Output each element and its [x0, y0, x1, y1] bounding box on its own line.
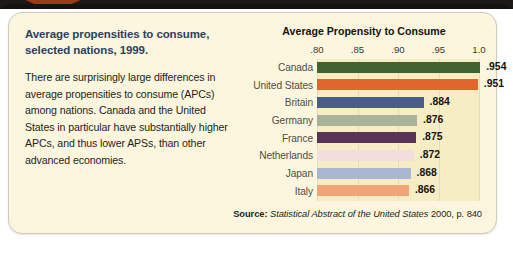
source-note: Source: Statistical Abstract of the Unit… — [25, 209, 482, 219]
bar-value-label: .872 — [420, 149, 440, 160]
x-tick-label-3: .95 — [432, 44, 445, 55]
figure-headline: Average propensities to consume, selecte… — [25, 27, 235, 58]
bar-category-label: France — [249, 133, 317, 144]
bar-value-label: .868 — [417, 167, 437, 178]
bar-canada — [317, 62, 480, 73]
source-rest: 2000, p. 840 — [431, 209, 482, 219]
bar-netherlands — [317, 150, 414, 161]
chart-title: Average Propensity to Consume — [249, 25, 487, 38]
bar-value-label: .866 — [415, 184, 435, 195]
bar-row: Canada.954 — [249, 59, 487, 77]
bar-value-label: .884 — [430, 96, 450, 107]
bar-value-label: .951 — [484, 78, 504, 89]
bar-rows: Canada.954United States.951Britain.884Ge… — [249, 59, 487, 201]
bar-category-label: United States — [249, 80, 317, 91]
bar-japan — [317, 168, 411, 179]
bar-germany — [317, 115, 417, 126]
bar-track: .954 — [317, 59, 487, 77]
bar-row: Germany.876 — [249, 112, 487, 130]
bar-britain — [317, 97, 424, 108]
bar-category-label: Japan — [249, 168, 317, 179]
bar-value-label: .875 — [422, 131, 442, 142]
bar-value-label: .876 — [423, 114, 443, 125]
bar-category-label: Britain — [249, 97, 317, 108]
bar-category-label: Netherlands — [249, 150, 317, 161]
bar-track: .951 — [317, 76, 487, 94]
bar-track: .875 — [317, 129, 487, 147]
figure-text-column: Average propensities to consume, selecte… — [25, 27, 235, 169]
bar-track: .872 — [317, 147, 487, 165]
bar-row: France.875 — [249, 129, 487, 147]
bar-category-label: Canada — [249, 62, 317, 73]
x-tick-label-2: .90 — [391, 44, 404, 55]
bar-row: Japan.868 — [249, 165, 487, 183]
x-axis-tick-labels: .80.85.90.951.0 — [317, 44, 487, 57]
page-top-bleed-strip — [0, 0, 513, 9]
bar-chart: Average Propensity to Consume .80.85.90.… — [249, 25, 487, 210]
bar-track: .868 — [317, 165, 487, 183]
bar-france — [317, 132, 416, 143]
figure-body-text: There are surprisingly large differences… — [25, 69, 235, 169]
bar-track: .876 — [317, 112, 487, 130]
x-tick-label-1: .85 — [351, 44, 364, 55]
bar-row: Netherlands.872 — [249, 147, 487, 165]
plot-area: Canada.954United States.951Britain.884Ge… — [249, 59, 487, 201]
bar-value-label: .954 — [486, 61, 506, 72]
x-tick-label-0: .80 — [310, 44, 323, 55]
source-title: Statistical Abstract of the United State… — [270, 209, 428, 219]
bar-category-label: Germany — [249, 115, 317, 126]
figure-card: Average propensities to consume, selecte… — [8, 12, 497, 234]
bar-row: United States.951 — [249, 76, 487, 94]
bar-italy — [317, 185, 409, 196]
x-tick-label-4: 1.0 — [472, 44, 485, 55]
bar-category-label: Italy — [249, 186, 317, 197]
source-label: Source: — [233, 209, 267, 219]
dark-band-shape — [0, 4, 513, 9]
bar-track: .866 — [317, 182, 487, 200]
bar-row: Britain.884 — [249, 94, 487, 112]
bar-united-states — [317, 79, 478, 90]
bar-track: .884 — [317, 94, 487, 112]
bar-row: Italy.866 — [249, 182, 487, 200]
